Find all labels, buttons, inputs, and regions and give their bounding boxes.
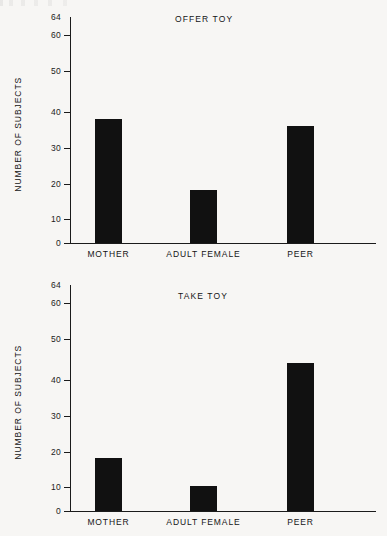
x-axis-line-take-toy — [70, 511, 376, 512]
y-tick-label-10-take-toy: 10 — [51, 483, 61, 492]
y-tick-10-offer-toy — [64, 219, 71, 220]
y-tick-label-0-take-toy: 0 — [56, 507, 61, 516]
y-tick-30-take-toy — [64, 416, 71, 417]
bar-offer-toy-peer — [287, 126, 314, 243]
chart-panel-offer-toy: OFFER TOY NUMBER OF SUBJECTS 64 60 50 40… — [0, 0, 387, 268]
x-category-label-mother-offer-toy: MOTHER — [75, 250, 142, 259]
chart-title-offer-toy: OFFER TOY — [175, 15, 233, 24]
y-axis-max-label-offer-toy: 64 — [51, 13, 61, 22]
y-tick-60-offer-toy — [64, 35, 71, 36]
y-axis-title-offer-toy: NUMBER OF SUBJECTS — [14, 59, 23, 209]
y-axis-max-label-take-toy: 64 — [51, 281, 61, 290]
y-tick-label-0-offer-toy: 0 — [56, 239, 61, 248]
plot-area-offer-toy: OFFER TOY NUMBER OF SUBJECTS 64 60 50 40… — [0, 0, 387, 268]
x-category-label-peer-offer-toy: PEER — [268, 250, 333, 259]
x-category-label-adult-female-offer-toy: ADULT FEMALE — [158, 250, 249, 259]
bar-offer-toy-adult-female — [190, 190, 217, 243]
chart-panel-take-toy: TAKE TOY NUMBER OF SUBJECTS 64 60 50 40 … — [0, 268, 387, 536]
y-tick-0-offer-toy — [64, 243, 71, 244]
y-tick-50-take-toy — [64, 339, 71, 340]
x-category-label-adult-female-take-toy: ADULT FEMALE — [158, 518, 249, 527]
y-tick-0-take-toy — [64, 511, 71, 512]
y-tick-50-offer-toy — [64, 71, 71, 72]
y-tick-40-offer-toy — [64, 112, 71, 113]
bar-take-toy-mother — [95, 458, 122, 511]
y-tick-label-40-take-toy: 40 — [51, 376, 61, 385]
y-tick-label-10-offer-toy: 10 — [51, 215, 61, 224]
y-tick-label-30-take-toy: 30 — [51, 412, 61, 421]
y-tick-20-take-toy — [64, 452, 71, 453]
y-tick-label-20-offer-toy: 20 — [51, 180, 61, 189]
y-tick-label-60-offer-toy: 60 — [51, 31, 61, 40]
y-tick-30-offer-toy — [64, 148, 71, 149]
x-category-label-peer-take-toy: PEER — [268, 518, 333, 527]
y-tick-40-take-toy — [64, 380, 71, 381]
y-tick-label-60-take-toy: 60 — [51, 299, 61, 308]
y-axis-line-take-toy — [70, 285, 71, 511]
bar-take-toy-adult-female — [190, 486, 217, 511]
plot-area-take-toy: TAKE TOY NUMBER OF SUBJECTS 64 60 50 40 … — [0, 268, 387, 536]
x-category-label-mother-take-toy: MOTHER — [75, 518, 142, 527]
y-tick-20-offer-toy — [64, 184, 71, 185]
y-tick-label-40-offer-toy: 40 — [51, 108, 61, 117]
y-axis-title-take-toy: NUMBER OF SUBJECTS — [14, 327, 23, 477]
y-axis-line-offer-toy — [70, 17, 71, 243]
y-tick-10-take-toy — [64, 487, 71, 488]
bar-take-toy-peer — [287, 363, 314, 511]
y-tick-label-30-offer-toy: 30 — [51, 144, 61, 153]
y-tick-60-take-toy — [64, 303, 71, 304]
y-tick-label-50-take-toy: 50 — [51, 335, 61, 344]
chart-title-take-toy: TAKE TOY — [178, 292, 228, 301]
y-tick-label-50-offer-toy: 50 — [51, 67, 61, 76]
bar-offer-toy-mother — [95, 119, 122, 243]
y-tick-label-20-take-toy: 20 — [51, 448, 61, 457]
x-axis-line-offer-toy — [70, 243, 376, 244]
